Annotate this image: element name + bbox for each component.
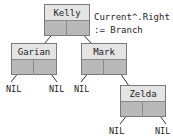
code-line-2: := Branch [94,24,170,37]
code-line-1: Current^.Right [94,11,170,24]
node-name: Mark [82,44,126,60]
node-name: Kelly [45,5,89,21]
node-name: Garian [12,44,56,60]
right-pointer-cell [34,60,56,75]
node-mark: Mark [81,43,127,75]
right-pointer-cell [143,102,165,117]
node-garian: Garian [11,43,57,75]
right-pointer-cell [67,21,89,36]
left-pointer-cell [12,60,34,75]
left-pointer-cell [121,102,143,117]
nil-label-mark-left: NIL [74,84,89,94]
node-kelly: Kelly [44,4,90,36]
node-name: Zelda [121,86,165,102]
left-pointer-cell [45,21,67,36]
nil-label-garian-right: NIL [49,84,64,94]
binary-tree-diagram: Kelly Garian Mark Zelda NIL NIL NIL NIL … [0,0,173,137]
right-pointer-cell [104,60,126,75]
nil-label-garian-left: NIL [6,84,21,94]
nil-label-zelda-right: NIL [155,126,170,136]
left-pointer-cell [82,60,104,75]
node-zelda: Zelda [120,85,166,117]
nil-label-zelda-left: NIL [109,126,124,136]
code-annotation: Current^.Right := Branch [94,11,170,37]
